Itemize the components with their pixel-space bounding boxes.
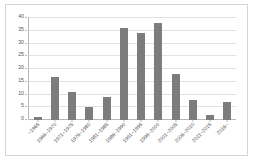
y-axis-tick-mark [25, 17, 27, 18]
bar-slot [29, 17, 46, 120]
y-axis-tick-mark [25, 81, 27, 82]
chart-screenshot: 0510152025303540 ~19651966~19701971~1975… [0, 0, 254, 163]
y-axis-tick-mark [25, 43, 27, 44]
y-axis-tick-label: 15 [18, 78, 24, 83]
y-axis-tick-label: 35 [18, 27, 24, 32]
bar-series [29, 17, 236, 120]
x-axis-tick-label-text: ~1965 [27, 122, 41, 136]
x-axis-label-slot: 2016~ [219, 121, 236, 157]
y-axis-tick-mark [25, 30, 27, 31]
y-axis-tick-label: 30 [18, 40, 24, 45]
bar[interactable] [51, 77, 59, 120]
y-axis-tick-mark [25, 119, 27, 120]
y-axis-tick-mark [25, 68, 27, 69]
y-axis-tick-label: 40 [18, 14, 24, 19]
bar-slot [46, 17, 63, 120]
y-axis: 0510152025303540 [6, 17, 27, 120]
x-axis: ~19651966~19701971~19751976~19801981~198… [29, 121, 236, 157]
y-axis-tick-label: 10 [18, 91, 24, 96]
x-axis-tick-label-text: 2016~ [216, 122, 230, 136]
y-axis-tick-mark [25, 94, 27, 95]
chart-frame: 0510152025303540 ~19651966~19701971~1975… [5, 4, 248, 156]
y-axis-tick-label: 0 [21, 116, 24, 121]
y-axis-tick-label: 20 [18, 65, 24, 70]
y-axis-tick-mark [25, 106, 27, 107]
y-axis-tick-label: 25 [18, 53, 24, 58]
y-axis-tick-label: 5 [21, 104, 24, 109]
y-axis-tick-mark [25, 55, 27, 56]
x-axis-label-slot: 2011~2015 [202, 121, 219, 157]
